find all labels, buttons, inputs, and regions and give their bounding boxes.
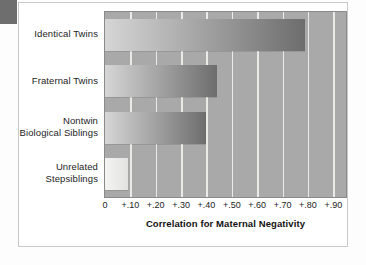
x-tick-label: +.20 [147, 200, 165, 210]
gridline [308, 12, 310, 197]
x-tick-label: +.90 [324, 200, 342, 210]
bar [105, 19, 305, 51]
category-label: Unrelated Stepsiblings [2, 161, 98, 184]
figure-root: Identical TwinsFraternal TwinsNontwin Bi… [0, 0, 366, 265]
gridline [333, 12, 335, 197]
bar [105, 112, 206, 144]
category-label: Nontwin Biological Siblings [2, 115, 98, 138]
x-tick-label: +.30 [172, 200, 190, 210]
x-tick-label: +.50 [223, 200, 241, 210]
bar [105, 65, 217, 97]
x-tick-label: 0 [102, 200, 107, 210]
category-label: Identical Twins [2, 28, 98, 40]
category-axis-labels: Identical TwinsFraternal TwinsNontwin Bi… [0, 11, 98, 198]
x-tick-label: +.60 [248, 200, 266, 210]
plot-area [104, 11, 347, 198]
bar [105, 158, 128, 190]
x-axis-title: Correlation for Maternal Negativity [104, 218, 347, 229]
category-label: Fraternal Twins [2, 75, 98, 87]
bar-chart: Identical TwinsFraternal TwinsNontwin Bi… [0, 0, 366, 265]
x-tick-label: +.70 [274, 200, 292, 210]
x-tick-label: +.80 [299, 200, 317, 210]
x-tick-label: +.40 [198, 200, 216, 210]
x-tick-label: +.10 [121, 200, 139, 210]
x-axis-ticks: 0+.10+.20+.30+.40+.50+.60+.70+.80+.90 [104, 200, 347, 214]
